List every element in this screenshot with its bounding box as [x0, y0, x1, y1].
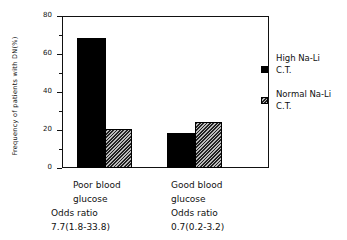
bar-good-high: [167, 133, 195, 168]
y-tick-label: 0: [32, 163, 52, 171]
y-tick: [57, 168, 62, 169]
bar-good-normal: [195, 122, 222, 168]
legend-entry-normal: Normal Na-Li C.T.: [276, 88, 331, 112]
y-tick-label: 80: [32, 11, 52, 19]
category-label-good: Good blood glucose: [171, 178, 223, 206]
bar-poor-high: [77, 38, 106, 168]
legend-swatch-hatched-icon: [261, 97, 268, 104]
y-tick-label: 40: [32, 87, 52, 95]
legend-entry-high: High Na-Li C.T.: [276, 52, 320, 76]
odds-ratio-poor: Odds ratio 7.7(1.8-33.8): [51, 206, 110, 234]
odds-ratio-good: Odds ratio 0.7(0.2-3.2): [171, 206, 224, 234]
y-axis-label: Frequency of patients with DN(%): [11, 21, 19, 171]
bar-poor-normal: [105, 129, 132, 168]
legend-swatch-solid-icon: [261, 66, 268, 73]
y-tick-label: 60: [32, 49, 52, 57]
y-tick-label: 20: [32, 125, 52, 133]
category-label-poor: Poor blood glucose: [73, 178, 121, 206]
